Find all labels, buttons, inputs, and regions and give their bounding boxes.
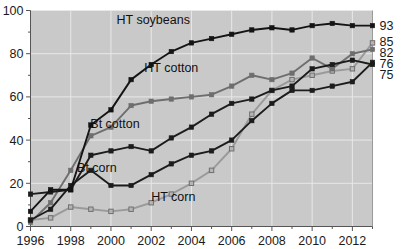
data-point-marker <box>310 23 314 27</box>
x-tick-label: 1998 <box>57 234 85 248</box>
data-point-marker <box>250 28 254 32</box>
data-point-marker <box>290 77 294 81</box>
line-chart: 0204060801001996199820002002200420062008… <box>0 0 411 249</box>
series-annotation-ht-corn: HT corn <box>151 190 195 204</box>
data-point-marker <box>330 21 334 25</box>
series-annotation-ht-cotton: HT cotton <box>144 61 198 75</box>
data-point-marker <box>189 181 193 185</box>
series-annotation-bt-cotton: Bt cotton <box>90 117 139 131</box>
data-point-marker <box>250 118 254 122</box>
data-point-marker <box>370 47 374 51</box>
data-point-marker <box>350 58 354 62</box>
data-point-marker <box>370 41 374 45</box>
data-point-marker <box>48 216 52 220</box>
data-point-marker <box>290 84 294 88</box>
data-point-marker <box>109 183 113 187</box>
data-point-marker <box>310 88 314 92</box>
data-point-marker <box>270 77 274 81</box>
data-point-marker <box>250 112 254 116</box>
data-point-marker <box>290 28 294 32</box>
data-point-marker <box>350 80 354 84</box>
data-point-marker <box>129 144 133 148</box>
data-point-marker <box>109 149 113 153</box>
y-tick-label: 60 <box>10 90 24 104</box>
data-point-marker <box>169 97 173 101</box>
y-tick-label: 80 <box>10 47 24 61</box>
data-point-marker <box>169 136 173 140</box>
data-point-marker <box>229 32 233 36</box>
data-point-marker <box>109 209 113 213</box>
data-point-marker <box>189 153 193 157</box>
end-value-label: 75 <box>380 68 394 82</box>
data-point-marker <box>209 36 213 40</box>
data-point-marker <box>350 52 354 56</box>
data-point-marker <box>28 218 32 222</box>
data-point-marker <box>330 62 334 66</box>
data-point-marker <box>310 56 314 60</box>
data-point-marker <box>48 201 52 205</box>
data-point-marker <box>270 101 274 105</box>
data-point-marker <box>310 67 314 71</box>
data-point-marker <box>28 192 32 196</box>
data-point-marker <box>48 188 52 192</box>
data-point-marker <box>149 172 153 176</box>
chart-container: 0204060801001996199820002002200420062008… <box>0 0 411 249</box>
data-point-marker <box>69 188 73 192</box>
data-point-marker <box>330 84 334 88</box>
data-point-marker <box>129 77 133 81</box>
data-point-marker <box>270 26 274 30</box>
data-point-marker <box>370 23 374 27</box>
data-point-marker <box>89 134 93 138</box>
data-point-marker <box>229 101 233 105</box>
data-point-marker <box>290 88 294 92</box>
data-point-marker <box>89 153 93 157</box>
data-point-marker <box>69 205 73 209</box>
data-point-marker <box>129 103 133 107</box>
data-point-marker <box>350 67 354 71</box>
y-tick-label: 40 <box>10 134 24 148</box>
data-point-marker <box>350 23 354 27</box>
x-tick-label: 2000 <box>97 234 125 248</box>
data-point-marker <box>250 97 254 101</box>
data-point-marker <box>290 71 294 75</box>
data-point-marker <box>149 99 153 103</box>
data-point-marker <box>69 168 73 172</box>
data-point-marker <box>129 183 133 187</box>
end-value-label: 93 <box>380 19 394 33</box>
x-tick-label: 2006 <box>218 234 246 248</box>
data-point-marker <box>48 207 52 211</box>
data-point-marker <box>109 108 113 112</box>
data-point-marker <box>250 73 254 77</box>
data-point-marker <box>209 149 213 153</box>
y-tick-label: 20 <box>10 177 24 191</box>
x-tick-label: 2002 <box>137 234 165 248</box>
data-point-marker <box>209 112 213 116</box>
data-point-marker <box>129 207 133 211</box>
data-point-marker <box>89 207 93 211</box>
data-point-marker <box>370 60 374 64</box>
data-point-marker <box>189 125 193 129</box>
data-point-marker <box>209 168 213 172</box>
x-tick-label: 2012 <box>338 234 366 248</box>
data-point-marker <box>229 138 233 142</box>
series-annotation-ht-soybeans: HT soybeans <box>117 13 190 27</box>
x-tick-label: 2008 <box>258 234 286 248</box>
data-point-marker <box>229 84 233 88</box>
data-point-marker <box>28 209 32 213</box>
data-point-marker <box>229 147 233 151</box>
data-point-marker <box>310 73 314 77</box>
y-tick-label: 100 <box>3 4 24 18</box>
y-tick-label: 0 <box>17 220 24 234</box>
data-point-marker <box>189 95 193 99</box>
x-tick-label: 2010 <box>298 234 326 248</box>
data-point-marker <box>169 162 173 166</box>
x-tick-label: 2004 <box>178 234 206 248</box>
data-point-marker <box>270 88 274 92</box>
data-point-marker <box>189 41 193 45</box>
data-point-marker <box>209 93 213 97</box>
data-point-marker <box>149 149 153 153</box>
data-point-marker <box>330 67 334 71</box>
series-annotation-bt-corn: Bt corn <box>77 161 117 175</box>
data-point-marker <box>169 49 173 53</box>
x-tick-label: 1996 <box>17 234 45 248</box>
